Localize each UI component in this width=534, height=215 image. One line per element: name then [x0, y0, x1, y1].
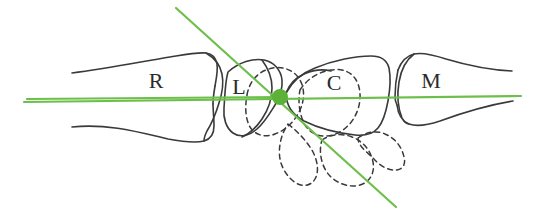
radius-distal-articular-surface [213, 86, 215, 104]
bone-label-radius: R [149, 68, 164, 93]
bone-label-lunate: L [232, 74, 245, 99]
metacarpal-upper-cortex [398, 53, 512, 71]
radius-lower-cortex [72, 104, 214, 142]
capitate-proximal-pole [286, 70, 331, 93]
trapezoid-hidden-outline [358, 132, 405, 170]
bone-label-metacarpal: M [421, 68, 441, 93]
oblique-axis-line [176, 8, 396, 207]
bone-label-capitate: C [327, 70, 342, 95]
wrist-bone-diagram: R L C M [0, 0, 534, 215]
capitate-outline [286, 56, 390, 135]
radius-upper-cortex [72, 53, 217, 86]
bone-group-capitate [286, 56, 390, 135]
bone-group-metacarpal [395, 53, 513, 125]
metacarpal-lower-cortex [397, 101, 513, 125]
diagram-canvas: R L C M [0, 0, 534, 215]
hamate-hidden-outline [279, 124, 317, 185]
rotation-center-dot [272, 89, 288, 105]
axis-group [24, 8, 521, 207]
